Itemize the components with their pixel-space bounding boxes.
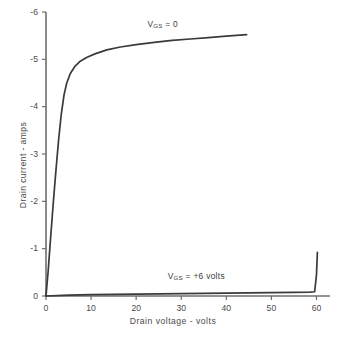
curve-annotation-vgs-plus6: VGS = +6 volts <box>168 271 225 281</box>
x-tick-label: 0 <box>31 304 61 313</box>
x-tick-label: 40 <box>211 304 241 313</box>
x-tick-label: 10 <box>76 304 106 313</box>
y-axis-title: Drain current - amps <box>18 95 28 235</box>
y-tick-label: -5 <box>10 55 38 64</box>
y-tick-label: -6 <box>10 8 38 17</box>
annot-1-tail: = +6 volts <box>183 271 225 281</box>
x-tick-label: 20 <box>121 304 151 313</box>
x-tick-label: 50 <box>256 304 286 313</box>
curve-annotation-vgs-0: VGS = 0 <box>147 19 178 29</box>
y-tick-label: -1 <box>10 244 38 253</box>
x-tick-label: 30 <box>166 304 196 313</box>
data-series-group <box>46 35 317 296</box>
annot-0-sub: GS <box>153 22 162 29</box>
annot-1-sub: GS <box>174 274 183 281</box>
y-tick-label: 0 <box>10 292 38 301</box>
annot-0-tail: = 0 <box>163 19 178 29</box>
figure-container: 0-1-2-3-4-5-6 0102030405060 Drain curren… <box>0 0 346 339</box>
data-curve <box>46 35 247 296</box>
plot-canvas <box>0 0 346 339</box>
x-axis-title: Drain voltage - volts <box>0 316 346 326</box>
x-tick-label: 60 <box>301 304 331 313</box>
axes <box>46 12 330 296</box>
